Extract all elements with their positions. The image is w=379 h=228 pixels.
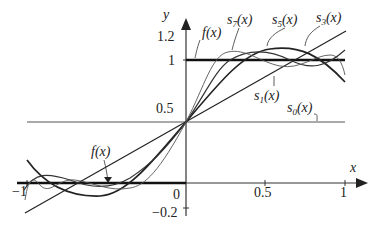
tick-label-1y: 1 <box>168 53 175 68</box>
y-axis-label: y <box>161 7 170 22</box>
tick-label-1.2: 1.2 <box>157 29 175 44</box>
label-s1: s1(x) <box>254 88 280 105</box>
arrow-f-top <box>195 40 200 58</box>
y-axis-arrow-icon <box>181 18 191 30</box>
arrow-s0 <box>314 114 317 121</box>
tick-label-1x: 1 <box>340 185 347 200</box>
x-axis-label: x <box>349 160 357 175</box>
label-s0: s0(x) <box>287 100 313 117</box>
curves <box>17 31 346 213</box>
tick-label-neg0.2: −0.2 <box>152 205 177 220</box>
arrow-s5 <box>267 28 285 46</box>
label-f-bottom: f(x) <box>91 144 111 160</box>
arrow-s3 <box>305 26 320 46</box>
tick-label-0.5x: 0.5 <box>254 185 272 200</box>
label-s7: s7(x) <box>227 12 253 29</box>
tick-label-neg1: −1 <box>12 184 27 199</box>
tick-label-0.5y: 0.5 <box>156 101 174 116</box>
arrow-s7 <box>232 28 239 50</box>
series-s7 <box>25 51 345 200</box>
annotations: f(x) s7(x) s5(x) s3(x) s1(x) s0(x) f(x) <box>91 10 342 183</box>
x-axis-arrow-icon <box>356 178 368 188</box>
label-s3: s3(x) <box>316 10 342 27</box>
series-s5 <box>24 50 345 190</box>
label-s5: s5(x) <box>272 12 298 29</box>
label-f-top: f(x) <box>202 25 222 41</box>
chart-canvas: −1 0 0.5 1 1.2 1 0.5 −0.2 y x f(x) s7(x)… <box>0 0 379 228</box>
tick-label-0: 0 <box>173 187 180 202</box>
